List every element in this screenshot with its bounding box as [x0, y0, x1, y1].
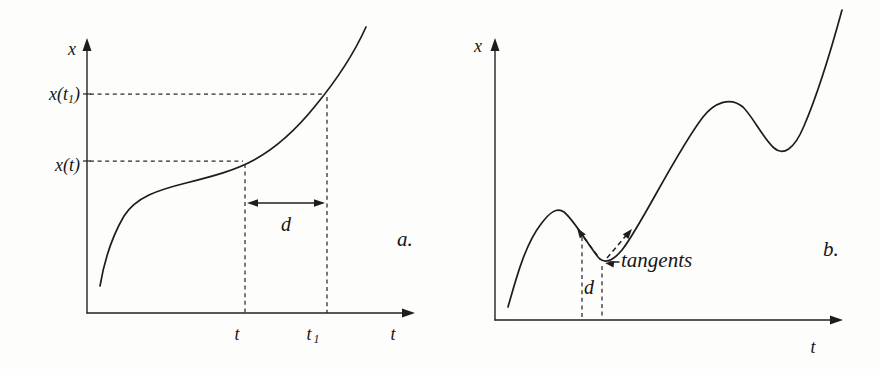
panel-a-label-x-of-t: x(t): [54, 155, 80, 176]
panel-a-caption: a.: [397, 227, 413, 251]
panel-a-label-x-of-t1: x(t1): [48, 84, 80, 106]
panel-b-y-axis-arrowhead-icon: [491, 38, 500, 51]
panel-a-interval-label: d: [281, 213, 292, 235]
panel-b-caption: b.: [823, 237, 839, 261]
panel-b: x t tangents d b.: [473, 10, 843, 357]
panel-a-y-axis-arrowhead-icon: [83, 38, 92, 51]
panel-a-interval-arrowhead-right-icon: [314, 199, 325, 207]
panel-b-tangents-label: tangents: [621, 248, 692, 272]
panel-a-curve: [100, 27, 366, 286]
panel-a-x-axis-label: t: [390, 324, 396, 344]
panel-a-y-axis-label: x: [67, 39, 76, 59]
panel-b-x-axis-arrowhead-icon: [830, 316, 843, 325]
panel-b-y-axis-label: x: [473, 36, 482, 56]
panel-a-tick-label-t: t: [234, 324, 240, 344]
panel-a-x-axis-arrowhead-icon: [402, 309, 415, 318]
scanned-figure: x t x(t1) x(t) t t1 d a.: [0, 0, 880, 369]
panel-a-tick-label-t1: t1: [306, 324, 319, 346]
panel-a-interval-arrowhead-left-icon: [247, 199, 258, 207]
panel-b-x-axis-label: t: [810, 337, 816, 357]
panel-a: x t x(t1) x(t) t t1 d a.: [48, 27, 415, 346]
panel-b-interval-label: d: [584, 276, 595, 298]
figure-canvas: x t x(t1) x(t) t t1 d a.: [0, 0, 880, 369]
